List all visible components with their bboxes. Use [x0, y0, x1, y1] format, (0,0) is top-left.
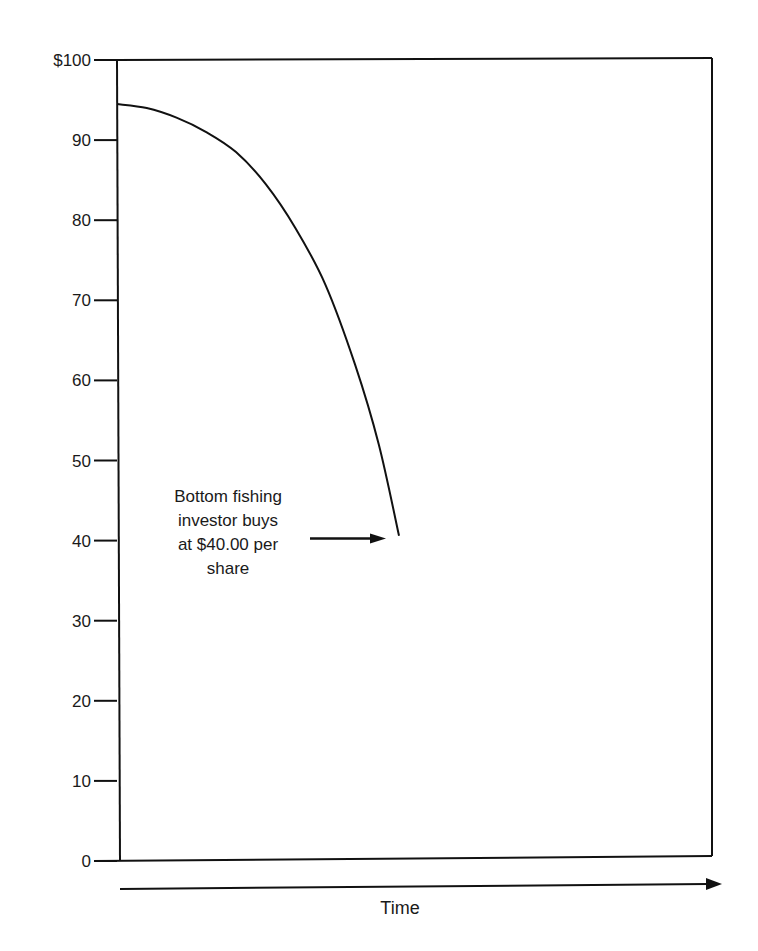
- y-axis-line: [117, 60, 120, 861]
- y-tick-label: 80: [72, 211, 91, 230]
- y-tick-label: $100: [53, 51, 91, 70]
- annotation-text-line: share: [207, 559, 250, 578]
- x-axis-label: Time: [380, 898, 419, 918]
- annotation-text-line: Bottom fishing: [174, 487, 282, 506]
- annotation: Bottom fishinginvestor buysat $40.00 per…: [174, 487, 386, 578]
- y-tick-label: 20: [72, 692, 91, 711]
- y-axis: 0102030405060708090$100: [53, 51, 117, 871]
- chart: 0102030405060708090$100 Bottom fishingin…: [0, 0, 758, 951]
- x-axis: Time: [120, 878, 722, 918]
- annotation-arrow-head: [370, 534, 386, 544]
- annotation-text-line: investor buys: [178, 511, 278, 530]
- x-axis-line: [94, 856, 712, 861]
- price-curve: [117, 104, 399, 536]
- series-layer: [117, 104, 399, 536]
- time-arrow-head: [706, 878, 722, 890]
- plot-top-border: [117, 58, 712, 60]
- time-arrow-shaft: [120, 884, 708, 889]
- y-tick-label: 70: [72, 291, 91, 310]
- y-tick-label: 60: [72, 371, 91, 390]
- y-tick-label: 90: [72, 131, 91, 150]
- annotation-text-line: at $40.00 per: [178, 535, 279, 554]
- y-tick-label: 0: [82, 852, 91, 871]
- y-tick-label: 50: [72, 452, 91, 471]
- plot-frame: [94, 58, 712, 861]
- y-tick-label: 40: [72, 532, 91, 551]
- y-tick-label: 30: [72, 612, 91, 631]
- y-tick-label: 10: [72, 772, 91, 791]
